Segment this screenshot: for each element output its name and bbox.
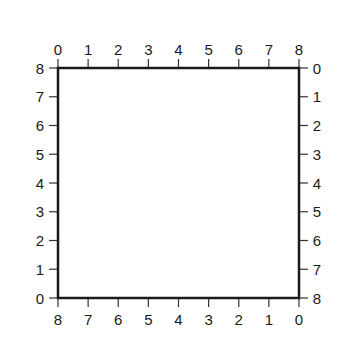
bottom-axis-label: 6 [114,311,122,328]
bottom-axis-label: 5 [144,311,152,328]
right-axis-label: 7 [313,261,321,278]
frame-box [58,68,299,298]
bottom-axis-label: 3 [204,311,212,328]
right-axis-label: 5 [313,203,321,220]
bottom-axis-label: 0 [295,311,303,328]
right-axis-label: 8 [313,290,321,307]
right-axis-label: 2 [313,117,321,134]
left-axis-label: 3 [36,203,44,220]
tick-marks [49,59,308,307]
bottom-axis-label: 7 [84,311,92,328]
top-axis-label: 0 [54,41,62,58]
left-axis-label: 0 [36,290,44,307]
top-axis-label: 1 [84,41,92,58]
left-axis-label: 4 [36,175,44,192]
top-axis-label: 8 [295,41,303,58]
top-axis-label: 4 [174,41,182,58]
bottom-axis-label: 1 [265,311,273,328]
right-axis-label: 0 [313,60,321,77]
top-axis-label: 7 [265,41,273,58]
bottom-axis-label: 2 [235,311,243,328]
top-axis-label: 6 [235,41,243,58]
top-axis-label: 5 [204,41,212,58]
diagram-canvas: 081726354453627180807162534435261708 [0,0,352,348]
top-axis-label: 3 [144,41,152,58]
top-axis-label: 2 [114,41,122,58]
right-axis-label: 3 [313,146,321,163]
left-axis-label: 2 [36,232,44,249]
bottom-axis-label: 4 [174,311,182,328]
left-axis-label: 7 [36,88,44,105]
left-axis-label: 6 [36,117,44,134]
axis-labels: 081726354453627180807162534435261708 [36,41,321,328]
right-axis-label: 4 [313,175,321,192]
left-axis-label: 5 [36,146,44,163]
left-axis-label: 1 [36,261,44,278]
bottom-axis-label: 8 [54,311,62,328]
right-axis-label: 6 [313,232,321,249]
grid-frame-diagram: 081726354453627180807162534435261708 [0,0,352,348]
right-axis-label: 1 [313,88,321,105]
left-axis-label: 8 [36,60,44,77]
